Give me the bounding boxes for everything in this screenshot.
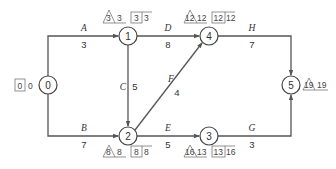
edges [48,36,291,136]
node-5-label: 5 [288,80,294,91]
activity-H-duration: 7 [249,39,254,50]
node-2: 2 [119,127,137,145]
node-1-box-left: 3 [134,13,139,23]
node-0-label: 0 [45,80,51,91]
activity-B-name: B [81,123,87,133]
activity-E-name: E [164,123,171,133]
node-4-label: 4 [206,31,212,42]
node-0-box-left: 0 [18,81,23,91]
node-4-times: 12 12 12 12 [184,10,236,23]
node-4: 4 [200,27,218,45]
node-5-triangle-value: 19 [304,80,314,90]
node-3-after-triangle: 13 [197,147,207,157]
node-0: 0 [39,76,57,94]
node-3-triangle-value: 16 [185,147,195,157]
activity-C-name: C [120,82,127,92]
activity-B-duration: 7 [81,139,86,150]
node-5: 5 [282,76,300,94]
activity-G-duration: 3 [249,139,254,150]
node-1-after-triangle: 3 [117,13,122,23]
node-4-box-right: 12 [226,13,236,23]
node-4-after-triangle: 12 [197,13,207,23]
activity-G-name: G [249,123,256,133]
node-0-times: 0 0 [15,79,33,91]
activity-F-duration: 4 [174,87,179,98]
edge-F [135,43,202,130]
node-3-label: 3 [206,131,212,142]
activity-C-duration: 5 [132,81,137,92]
node-1-triangle-value: 3 [106,13,111,23]
node-2-box-left: 8 [134,147,139,157]
activity-H-name: H [248,23,257,33]
node-3-box-left: 13 [214,147,224,157]
activity-A-duration: 3 [81,39,86,50]
network-diagram: A 3 B 7 C 5 D 8 E 5 F 4 G 3 H 7 0 1 2 3 … [0,0,336,169]
node-2-box-right: 8 [144,147,149,157]
activity-E-duration: 5 [165,139,170,150]
activity-D-duration: 8 [165,39,170,50]
activity-F-name: F [167,74,174,84]
node-0-box-right: 0 [28,81,33,91]
node-1: 1 [119,27,137,45]
node-3: 3 [200,127,218,145]
node-5-after-triangle: 19 [317,80,327,90]
node-3-times: 16 13 13 16 [184,145,236,157]
node-2-times: 8 8 8 8 [103,145,152,157]
node-4-box-left: 12 [214,13,224,23]
node-5-times: 19 19 [303,78,328,90]
node-2-after-triangle: 8 [117,147,122,157]
node-2-label: 2 [125,131,131,142]
node-1-times: 3 3 3 3 [103,10,152,23]
node-3-box-right: 16 [226,147,236,157]
activity-D-name: D [164,23,172,33]
node-2-triangle-value: 8 [106,147,111,157]
node-4-triangle-value: 12 [185,13,195,23]
node-1-label: 1 [125,31,131,42]
activity-A-name: A [80,23,87,33]
node-1-box-right: 3 [144,13,149,23]
